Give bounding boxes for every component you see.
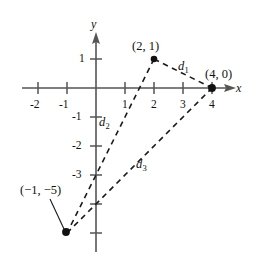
y-tick-label--3: -3 [72,169,82,181]
distance-label-d2-subscript: 2 [106,121,110,131]
point-marker-2-1 [151,56,158,63]
x-tick-label-2: 2 [151,99,157,111]
x-tick-label--2: -2 [30,99,40,111]
coordinate-plane-figure: x y -2 -1 1 2 3 4 1 -1 -2 -3 (2, 1) (4, … [0,0,265,258]
x-tick-label-4: 4 [209,99,215,111]
leader-line-neg1-neg5 [50,199,64,229]
y-axis-label: y [91,18,96,30]
distance-label-d1-subscript: 1 [185,65,189,75]
x-tick-label--1: -1 [59,99,69,111]
point-marker-neg1-neg5 [62,228,70,236]
distance-label-d3-base: d [136,157,142,171]
point-label-neg1-neg5: (−1, −5) [20,184,61,197]
x-axis-label: x [236,82,241,94]
distance-label-d2-base: d [99,115,105,129]
distance-label-d1-base: d [178,59,184,73]
distance-label-d1: d1 [178,60,189,73]
distance-label-d3-subscript: 3 [143,163,147,173]
x-tick-label-3: 3 [180,99,186,111]
y-tick-label-1: 1 [79,53,85,65]
y-tick-label--2: -2 [72,140,82,152]
distance-label-d2: d2 [99,116,110,129]
x-tick-label-1: 1 [122,99,128,111]
point-label-2-1: (2, 1) [132,40,159,53]
point-marker-4-0 [208,84,216,92]
y-tick-label--1: -1 [72,111,82,123]
point-label-4-0: (4, 0) [205,68,232,81]
distance-label-d3: d3 [136,158,147,171]
